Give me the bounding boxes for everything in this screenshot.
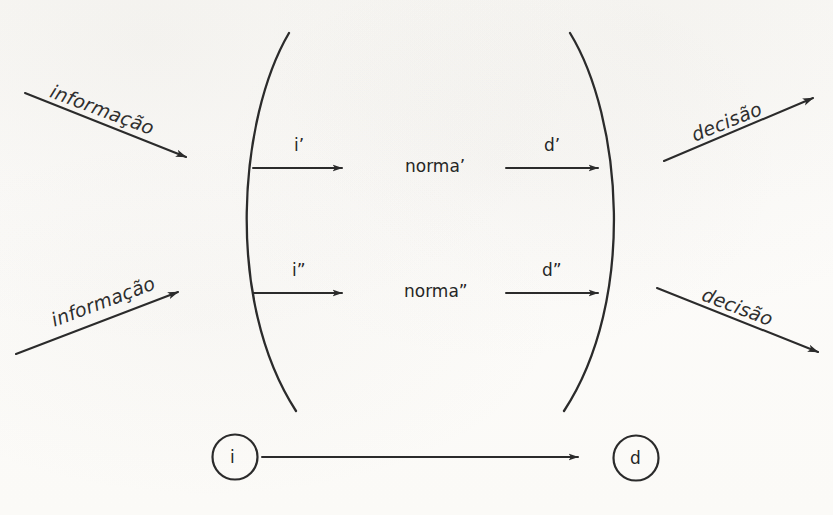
diagram-figure: informação informação decisão decisão i’…	[0, 0, 833, 515]
label-node-i: i	[230, 447, 235, 467]
label-row1-norma: norma’	[405, 156, 465, 176]
label-row1-output: d’	[544, 135, 560, 155]
label-row2-norma: norma”	[404, 281, 468, 301]
label-row2-output: d”	[542, 260, 562, 280]
bracket-left-paren	[247, 33, 296, 411]
diagram-vector-layer	[0, 0, 833, 515]
node-circle-i	[213, 435, 258, 480]
bracket-right-paren	[564, 33, 614, 411]
label-row2-input: i”	[292, 260, 306, 280]
label-row1-input: i’	[294, 135, 304, 155]
label-node-d: d	[630, 448, 641, 468]
